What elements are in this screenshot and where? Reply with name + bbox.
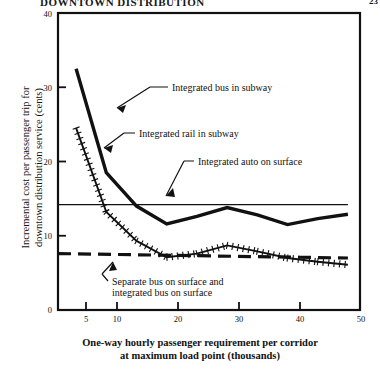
hatch-tick: [232, 243, 233, 250]
leader-auto-surface: [166, 161, 194, 196]
hatch-tick: [345, 261, 346, 268]
hatch-tick: [334, 260, 335, 267]
figure-container: DOWNTOWN DISTRIBUTION 23 Incremental cos…: [0, 0, 380, 369]
hatch-tick: [257, 248, 259, 255]
series-line: [76, 128, 348, 265]
hatch-tick: [273, 251, 275, 258]
y-axis-ticks: [58, 13, 66, 236]
hatch-tick: [177, 252, 178, 259]
hatch-tick: [323, 259, 324, 266]
series-3: [58, 254, 348, 258]
hatch-tick: [293, 255, 294, 262]
series-0: [76, 69, 348, 225]
leader-sep-bus: [102, 262, 113, 281]
series-line: [76, 69, 348, 225]
data-series-layer: [58, 69, 348, 268]
hatch-tick: [262, 249, 264, 256]
hatch-tick: [194, 250, 195, 257]
leader-bus-subway: [117, 87, 168, 108]
plot-svg: [0, 0, 380, 369]
leader-rail-subway: [104, 133, 135, 148]
hatch-tick: [328, 259, 329, 266]
hatch-tick: [237, 244, 238, 251]
hatch-tick: [253, 247, 254, 254]
series-line: [58, 254, 348, 258]
series-1: [73, 127, 348, 268]
hatch-tick: [243, 245, 244, 252]
hatch-tick: [339, 260, 340, 267]
x-axis-ticks: [86, 302, 360, 310]
hatch-tick: [226, 242, 227, 249]
hatch-tick: [172, 253, 173, 260]
hatch-tick: [314, 258, 315, 265]
hatch-tick: [248, 246, 249, 253]
hatch-tick: [317, 258, 318, 265]
